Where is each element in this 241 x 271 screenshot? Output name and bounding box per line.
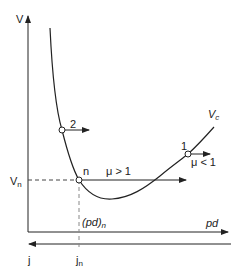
point-n-marker	[76, 177, 82, 183]
mu-gt-label: μ > 1	[106, 165, 131, 177]
jn-tick-label: jn	[75, 254, 83, 268]
j-axis-label: j	[27, 254, 30, 266]
point-2-label: 2	[70, 118, 76, 130]
point-1-label: 1	[181, 140, 187, 152]
v-axis-label: V	[16, 13, 24, 25]
point-2-marker	[59, 127, 65, 133]
vn-tick-label: Vn	[10, 175, 22, 189]
pd-axis-label: pd	[205, 217, 219, 229]
mu-lt-label: μ < 1	[191, 156, 216, 168]
paschen-diagram: V Vn pd (pd)n j jn Vc 2 n 1 μ > 1 μ < 1	[0, 0, 241, 271]
point-n-label: n	[83, 165, 89, 177]
vc-curve-label: Vc	[208, 108, 219, 122]
pdn-tick-label: (pd)n	[82, 216, 107, 230]
paschen-curve	[50, 28, 214, 199]
